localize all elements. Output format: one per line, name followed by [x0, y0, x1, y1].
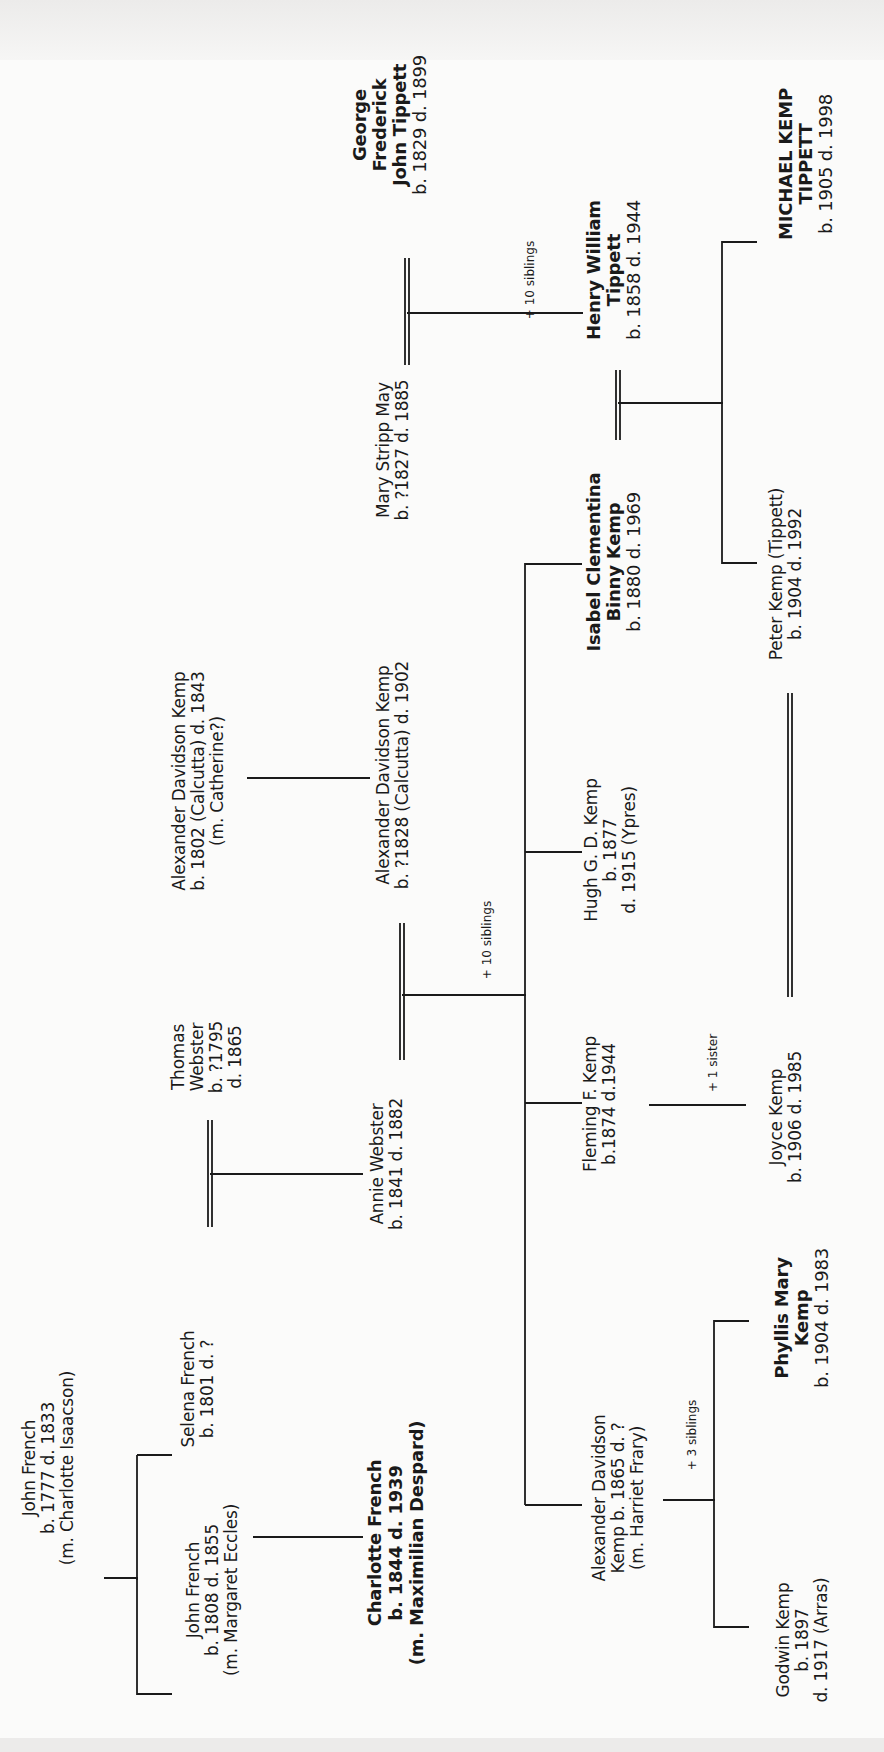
person-dates: Kemp b. 1865 d. ? [609, 1415, 628, 1582]
person-alexander-kemp-1802: Alexander Davidson Kemp b. 1802 (Calcutt… [170, 671, 227, 890]
person-charlotte-french: Charlotte French b. 1844 d. 1939 (m. Max… [364, 1421, 427, 1666]
person-dates: b. 1904 d. 1983 [812, 1248, 832, 1388]
person-dates: b. 1801 d. ? [198, 1331, 217, 1448]
person-dates: b. 1841 d. 1882 [387, 1098, 406, 1230]
person-name: Annie Webster [368, 1098, 387, 1230]
person-name: Thomas [169, 1021, 188, 1093]
person-dates: b. 1906 d. 1985 [786, 1051, 805, 1183]
person-dates: b. 1777 d. 1833 [39, 1371, 58, 1566]
person-name: Webster [188, 1021, 207, 1093]
person-godwin-kemp: Godwin Kemp b. 1897 d. 1917 (Arras) [774, 1577, 831, 1702]
person-dates: b.1874 d.1944 [600, 1036, 619, 1172]
person-spouse: (m. Harriet Frary) [628, 1415, 647, 1582]
person-name: George [350, 55, 370, 195]
person-dates: b. 1904 d. 1992 [786, 488, 805, 660]
person-spouse: (m. Catherine?) [208, 671, 227, 890]
person-alexander-kemp-1828: Alexander Davidson Kemp b. ?1828 (Calcut… [374, 661, 412, 889]
person-name: Phyllis Mary [772, 1248, 792, 1388]
person-birth: b. 1877 [601, 778, 620, 922]
person-hugh-kemp: Hugh G. D. Kemp b. 1877 d. 1915 (Ypres) [582, 778, 639, 922]
person-name: Kemp [792, 1248, 812, 1388]
person-fleming-kemp: Fleming F. Kemp b.1874 d.1944 [581, 1036, 619, 1172]
person-name: Henry William [584, 200, 604, 340]
person-dates: b. ?1828 (Calcutta) d. 1902 [393, 661, 412, 889]
person-dates: b. 1844 d. 1939 [385, 1421, 406, 1666]
person-name: Fleming F. Kemp [581, 1036, 600, 1172]
person-name: Mary Stripp May [374, 380, 393, 521]
person-name: John French [184, 1504, 203, 1676]
note-phyllis-siblings: + 3 siblings [685, 1400, 699, 1471]
person-michael-tippett: MICHAEL KEMP TIPPETT b. 1905 d. 1998 [776, 88, 836, 240]
person-name: TIPPETT [796, 88, 816, 240]
person-dates: b. 1905 d. 1998 [816, 88, 836, 240]
note-joyce-sister: + 1 sister [706, 1034, 720, 1092]
person-death: d. 1917 (Arras) [812, 1577, 831, 1702]
person-name: Joyce Kemp [767, 1051, 786, 1183]
person-name: Selena French [179, 1331, 198, 1448]
person-name: Binny Kemp [604, 473, 624, 652]
person-name: Alexander Davidson Kemp [170, 671, 189, 890]
person-george-tippett: George Frederick John Tippett b. 1829 d.… [350, 55, 430, 195]
person-isabel-kemp: Isabel Clementina Binny Kemp b. 1880 d. … [584, 473, 644, 652]
person-birth: b. ?1795 [207, 1021, 226, 1093]
person-name: Alexander Davidson Kemp [374, 661, 393, 889]
note-kemp-siblings: + 10 siblings [480, 901, 494, 979]
tree-connectors [0, 0, 884, 1752]
person-dates: b. 1858 d. 1944 [624, 200, 644, 340]
person-death: d. 1865 [226, 1021, 245, 1093]
person-alexander-kemp-1865: Alexander Davidson Kemp b. 1865 d. ? (m.… [590, 1415, 647, 1582]
person-name: John Tippett [390, 55, 410, 195]
person-john-french-1808: John French b. 1808 d. 1855 (m. Margaret… [184, 1504, 241, 1676]
person-dates: b. ?1827 d. 1885 [393, 380, 412, 521]
note-tippett-siblings: + 10 siblings [523, 241, 537, 319]
person-name: Alexander Davidson [590, 1415, 609, 1582]
person-name: Charlotte French [364, 1421, 385, 1666]
person-mary-stripp-may: Mary Stripp May b. ?1827 d. 1885 [374, 380, 412, 521]
person-dates: b. 1880 d. 1969 [624, 473, 644, 652]
person-name: Tippett [604, 200, 624, 340]
person-dates: b. 1808 d. 1855 [203, 1504, 222, 1676]
person-dates: b. 1829 d. 1899 [410, 55, 430, 195]
person-dates: b. 1802 (Calcutta) d. 1843 [189, 671, 208, 890]
person-thomas-webster: Thomas Webster b. ?1795 d. 1865 [169, 1021, 245, 1093]
person-spouse: (m. Charlotte Isaacson) [58, 1371, 77, 1566]
person-henry-tippett: Henry William Tippett b. 1858 d. 1944 [584, 200, 644, 340]
person-name: Isabel Clementina [584, 473, 604, 652]
person-phyllis-kemp: Phyllis Mary Kemp b. 1904 d. 1983 [772, 1248, 832, 1388]
person-name: John French [20, 1371, 39, 1566]
person-joyce-kemp: Joyce Kemp b. 1906 d. 1985 [767, 1051, 805, 1183]
person-name: Hugh G. D. Kemp [582, 778, 601, 922]
person-spouse: (m. Margaret Eccles) [222, 1504, 241, 1676]
person-peter-kemp: Peter Kemp (Tippett) b. 1904 d. 1992 [767, 488, 805, 660]
person-death: d. 1915 (Ypres) [620, 778, 639, 922]
person-spouse: (m. Maximilian Despard) [406, 1421, 427, 1666]
person-annie-webster: Annie Webster b. 1841 d. 1882 [368, 1098, 406, 1230]
person-name: MICHAEL KEMP [776, 88, 796, 240]
person-birth: b. 1897 [793, 1577, 812, 1702]
person-name: Godwin Kemp [774, 1577, 793, 1702]
person-name: Frederick [370, 55, 390, 195]
person-john-french-1777: John French b. 1777 d. 1833 (m. Charlott… [20, 1371, 77, 1566]
person-name: Peter Kemp (Tippett) [767, 488, 786, 660]
person-selena-french: Selena French b. 1801 d. ? [179, 1331, 217, 1448]
